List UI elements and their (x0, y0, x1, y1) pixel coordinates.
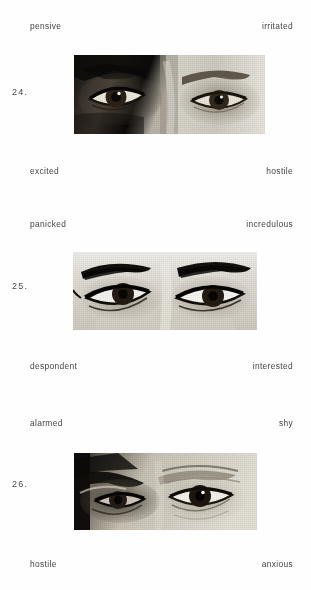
option-bottom-right[interactable]: interested (253, 360, 293, 372)
option-top-right[interactable]: irritated (262, 20, 293, 32)
answer-options-top: panicked incredulous (0, 218, 311, 232)
test-item: pensive irritated 24. (0, 0, 311, 196)
answer-options-bottom: hostile anxious (0, 558, 311, 572)
answer-options-top: alarmed shy (0, 417, 311, 431)
eyes-photo (73, 252, 257, 330)
eyes-photo-graphic (74, 453, 257, 530)
option-top-right[interactable]: shy (279, 417, 293, 429)
test-item: alarmed shy 26. (0, 392, 311, 590)
item-number: 25. (12, 280, 28, 292)
item-number: 26. (12, 478, 28, 490)
option-top-right[interactable]: incredulous (246, 218, 293, 230)
test-item: panicked incredulous 25. (0, 196, 311, 392)
option-top-left[interactable]: pensive (30, 20, 61, 32)
answer-options-bottom: excited hostile (0, 165, 311, 179)
option-bottom-left[interactable]: hostile (30, 558, 57, 570)
item-number: 24. (12, 86, 28, 98)
eyes-photo (74, 55, 265, 134)
eyes-photo-graphic (74, 55, 265, 134)
option-top-left[interactable]: panicked (30, 218, 66, 230)
answer-options-bottom: despondent interested (0, 360, 311, 374)
answer-options-top: pensive irritated (0, 20, 311, 34)
option-bottom-right[interactable]: hostile (266, 165, 293, 177)
option-bottom-right[interactable]: anxious (262, 558, 293, 570)
eyes-photo-graphic (73, 252, 257, 330)
option-bottom-left[interactable]: despondent (30, 360, 77, 372)
eyes-photo (74, 453, 257, 530)
option-bottom-left[interactable]: excited (30, 165, 59, 177)
option-top-left[interactable]: alarmed (30, 417, 63, 429)
test-page: pensive irritated 24. (0, 0, 311, 590)
